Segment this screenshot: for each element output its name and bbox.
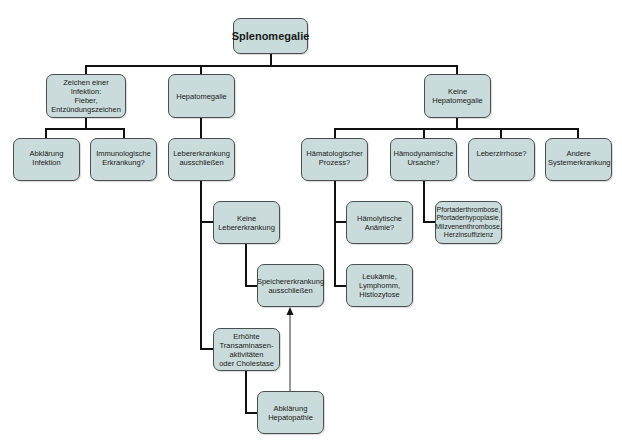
node-speichererkrankung: Speichererkrankung ausschließen xyxy=(257,264,324,307)
node-keine-lebererkrankung: Keine Lebererkrankung xyxy=(213,201,280,244)
node-hepatomegalie: Hepatomegalie xyxy=(168,74,235,118)
node-haematologischer-prozess: Hämatologischer Prozess? xyxy=(301,138,368,181)
node-infektion: Zeichen einer Infektion: Fieber, Entzünd… xyxy=(46,74,126,118)
node-andere-systemerkrankung: Andere Systemerkrankung xyxy=(545,138,612,181)
node-haemolytische-anaemie: Hämolytische Anämie? xyxy=(346,201,413,244)
node-haemodynamische-ursache: Hämodynamische Ursache? xyxy=(390,138,457,181)
node-leberzirrhose: Leberzirrhose? xyxy=(468,138,535,181)
arrow-connector xyxy=(0,0,622,442)
node-lebererkrankung-ausschliessen: Lebererkrankung ausschließen xyxy=(168,138,235,181)
node-abklaerung-hepatopathie: Abklärung Hepatopathie xyxy=(257,391,324,434)
node-pfortader: Pfortaderthrombose, Pfortaderhypoplasie,… xyxy=(435,201,502,244)
node-immunologische-erkrankung: Immunologische Erkrankung? xyxy=(90,138,157,181)
node-leukaemie: Leukämie, Lymphomm, Histiozytose xyxy=(346,264,413,307)
node-erhoehte-transaminasen: Erhöhte Transaminasen- aktivitäten oder … xyxy=(213,328,280,371)
node-keine-hepatomegalie: Keine Hepatomegalie xyxy=(424,74,491,118)
node-splenomegalie: Splenomegalie xyxy=(233,18,308,54)
node-abklaerung-infektion: Abklärung Infektion xyxy=(13,138,80,181)
